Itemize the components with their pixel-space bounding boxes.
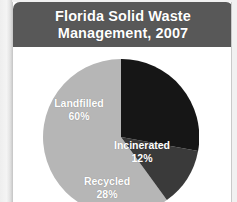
pie-chart: Landfilled 60% Incinerated 12% Recycled … (13, 47, 232, 202)
pie-graphic (43, 59, 199, 202)
pie-slice-incinerated (121, 59, 199, 151)
page-margin (0, 0, 12, 202)
pie-svg (43, 59, 199, 202)
page-title: Florida Solid Waste Management, 2007 (55, 8, 191, 42)
chart-card: Florida Solid Waste Management, 2007 Lan… (12, 2, 232, 202)
card-header: Florida Solid Waste Management, 2007 (13, 2, 232, 47)
